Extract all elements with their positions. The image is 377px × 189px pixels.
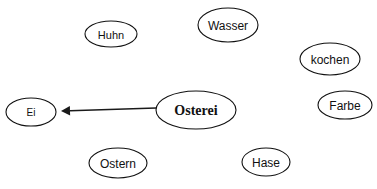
node-osterei[interactable]: Osterei bbox=[156, 91, 236, 129]
node-hase[interactable]: Hase bbox=[242, 148, 290, 176]
node-label: Ei bbox=[27, 107, 36, 118]
node-ostern[interactable]: Ostern bbox=[89, 148, 147, 178]
node-ei[interactable]: Ei bbox=[6, 98, 56, 126]
node-huhn[interactable]: Huhn bbox=[85, 21, 137, 47]
semantic-network-svg: EiHuhnWasserkochenFarbeOstereiOsternHase bbox=[0, 0, 377, 189]
node-layer: EiHuhnWasserkochenFarbeOstereiOsternHase bbox=[6, 8, 372, 178]
diagram-canvas: EiHuhnWasserkochenFarbeOstereiOsternHase bbox=[0, 0, 377, 189]
node-label: Hase bbox=[252, 156, 280, 170]
edge-line bbox=[70, 108, 156, 111]
node-label: Osterei bbox=[174, 103, 217, 118]
node-label: Huhn bbox=[98, 29, 124, 41]
node-farbe[interactable]: Farbe bbox=[318, 91, 372, 119]
edge-osterei-to-ei[interactable] bbox=[61, 106, 156, 115]
edge-layer bbox=[61, 106, 156, 115]
node-label: Ostern bbox=[100, 157, 136, 171]
node-label: Farbe bbox=[329, 99, 361, 113]
node-wasser[interactable]: Wasser bbox=[198, 8, 258, 42]
node-kochen[interactable]: kochen bbox=[300, 43, 360, 75]
node-label: Wasser bbox=[208, 19, 248, 33]
arrowhead-icon bbox=[61, 106, 70, 115]
node-label: kochen bbox=[311, 53, 350, 67]
